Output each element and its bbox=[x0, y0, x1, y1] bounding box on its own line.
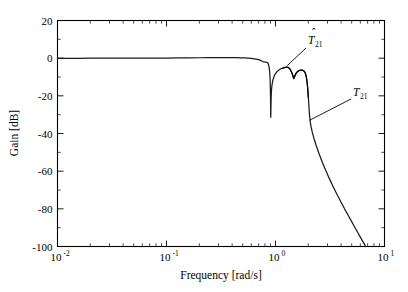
series-line-t21-hat bbox=[282, 67, 308, 97]
x-tick-exponent: 1 bbox=[391, 249, 395, 258]
x-tick-exponent: -1 bbox=[173, 249, 179, 258]
y-axis-tick-labels: 200-20-40-60-80-100 bbox=[32, 15, 53, 253]
x-tick-exponent: -2 bbox=[64, 249, 70, 258]
chart-canvas: 10-210-1100101 200-20-40-60-80-100 ̂ T 2… bbox=[0, 0, 408, 292]
annotation-t-hat-21-subscript: 21 bbox=[315, 40, 323, 49]
series-line-t21 bbox=[58, 58, 366, 247]
leader-line-t-21 bbox=[309, 99, 351, 120]
x-axis-tick-labels: 10-210-1100101 bbox=[51, 249, 395, 263]
annotation-hat-accent: ̂ bbox=[311, 28, 316, 30]
y-tick-label: -100 bbox=[32, 241, 53, 253]
x-tick-label: 100 bbox=[269, 249, 286, 263]
y-tick-label: -20 bbox=[38, 90, 53, 102]
y-tick-label: -80 bbox=[38, 203, 53, 215]
x-axis-title: Frequency [rad/s] bbox=[180, 269, 261, 282]
x-tick-mantissa: 10 bbox=[160, 251, 172, 263]
x-tick-label: 101 bbox=[378, 249, 395, 263]
annotation-t-hat-21: ̂ T 21 bbox=[308, 28, 323, 49]
x-tick-mantissa: 10 bbox=[269, 251, 281, 263]
x-tick-label: 10-2 bbox=[51, 249, 70, 263]
annotation-leader-lines bbox=[287, 48, 351, 120]
y-axis-ticks bbox=[58, 21, 385, 247]
y-tick-label: -60 bbox=[38, 165, 53, 177]
x-tick-exponent: 0 bbox=[282, 249, 286, 258]
y-axis-title: Gain [dB] bbox=[8, 110, 20, 156]
annotation-t-21-subscript: 21 bbox=[360, 92, 368, 101]
bode-magnitude-figure: 10-210-1100101 200-20-40-60-80-100 ̂ T 2… bbox=[0, 0, 408, 292]
x-tick-mantissa: 10 bbox=[378, 251, 390, 263]
x-tick-label: 10-1 bbox=[160, 249, 179, 263]
annotation-t-21: T 21 bbox=[353, 86, 368, 101]
y-tick-label: 0 bbox=[47, 52, 53, 64]
plot-frame bbox=[58, 21, 385, 247]
leader-line-t-hat-21 bbox=[287, 48, 306, 66]
x-axis-ticks bbox=[58, 21, 385, 247]
y-tick-label: 20 bbox=[42, 15, 54, 27]
y-tick-label: -40 bbox=[38, 128, 53, 140]
